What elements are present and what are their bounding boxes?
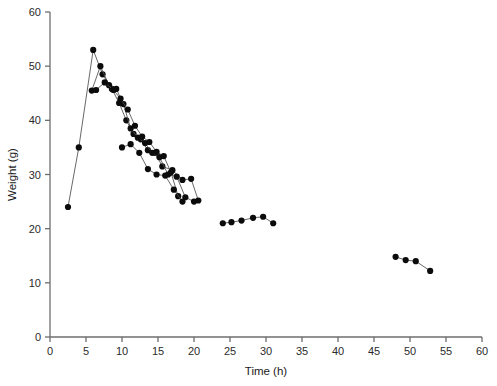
x-axis-tick-label: 25 — [224, 345, 236, 357]
data-point-marker — [220, 220, 226, 226]
data-point-marker — [413, 258, 419, 264]
data-point-marker — [238, 217, 244, 223]
data-point-marker — [128, 141, 134, 147]
x-axis-tick-label: 5 — [83, 345, 89, 357]
data-point-marker — [250, 215, 256, 221]
data-point-marker — [188, 176, 194, 182]
data-point-marker — [76, 144, 82, 150]
data-point-marker — [119, 144, 125, 150]
data-point-marker — [260, 214, 266, 220]
data-point-marker — [97, 63, 103, 69]
x-axis-tick-label: 45 — [368, 345, 380, 357]
y-axis-tick-label: 30 — [29, 169, 41, 181]
data-point-marker — [153, 171, 159, 177]
data-point-marker — [125, 106, 131, 112]
x-axis-tick-label: 40 — [332, 345, 344, 357]
data-point-marker — [153, 149, 159, 155]
x-axis-tick-label: 55 — [440, 345, 452, 357]
x-axis-tick-label: 30 — [260, 345, 272, 357]
data-point-marker — [65, 204, 71, 210]
series-polyline — [396, 257, 431, 271]
data-series — [220, 214, 277, 227]
data-point-marker — [168, 169, 174, 175]
x-axis-tick-label: 0 — [47, 345, 53, 357]
x-axis-tick-label: 50 — [404, 345, 416, 357]
data-point-marker — [270, 220, 276, 226]
data-point-marker — [171, 187, 177, 193]
data-point-marker — [174, 174, 180, 180]
x-axis-tick-label: 35 — [296, 345, 308, 357]
data-point-marker — [146, 139, 152, 145]
data-point-marker — [145, 166, 151, 172]
data-point-marker — [161, 153, 167, 159]
data-point-marker — [136, 150, 142, 156]
y-axis-tick-label: 60 — [29, 6, 41, 18]
data-point-marker — [403, 257, 409, 263]
data-point-marker — [191, 198, 197, 204]
data-point-marker — [132, 123, 138, 129]
y-axis-tick-label: 20 — [29, 223, 41, 235]
data-point-marker — [179, 177, 185, 183]
x-axis-tick-label: 20 — [188, 345, 200, 357]
x-axis-tick-label: 10 — [116, 345, 128, 357]
y-axis-tick-label: 40 — [29, 114, 41, 126]
data-point-marker — [110, 87, 116, 93]
data-point-marker — [117, 96, 123, 102]
plot-area — [65, 47, 433, 274]
data-point-marker — [93, 87, 99, 93]
data-point-marker — [393, 254, 399, 260]
y-axis-tick-label: 0 — [35, 331, 41, 343]
weight-vs-time-chart: 0102030405060051015202530354045505560Tim… — [0, 0, 497, 386]
data-point-marker — [90, 47, 96, 53]
x-axis-tick-label: 60 — [476, 345, 488, 357]
x-axis-title: Time (h) — [245, 365, 288, 377]
data-point-marker — [228, 219, 234, 225]
y-axis-title: Weight (g) — [6, 148, 18, 201]
data-point-marker — [179, 198, 185, 204]
data-point-marker — [427, 268, 433, 274]
data-point-marker — [139, 133, 145, 139]
data-series — [393, 254, 434, 274]
chart-canvas: 0102030405060051015202530354045505560Tim… — [0, 0, 497, 386]
y-axis: 0102030405060 — [29, 6, 50, 343]
y-axis-tick-label: 10 — [29, 277, 41, 289]
data-point-marker — [162, 172, 168, 178]
x-axis-tick-label: 15 — [152, 345, 164, 357]
y-axis-tick-label: 50 — [29, 60, 41, 72]
data-point-marker — [102, 79, 108, 85]
x-axis: 051015202530354045505560 — [47, 337, 488, 357]
